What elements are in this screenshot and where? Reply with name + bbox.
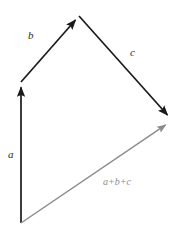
vector-b-label: b: [28, 30, 34, 41]
vector-diagram-figure: a b c a+b+c: [0, 0, 189, 237]
vector-resultant-arrow: [21, 125, 166, 223]
vector-resultant-label: a+b+c: [103, 177, 131, 187]
vector-c-label: c: [130, 47, 135, 58]
vector-c-arrow: [79, 16, 167, 115]
vector-a-label: a: [8, 149, 14, 160]
